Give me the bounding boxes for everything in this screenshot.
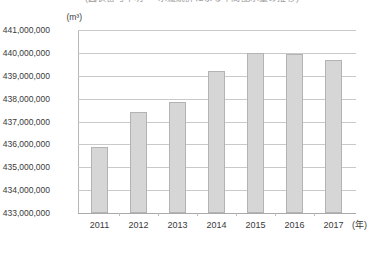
bar-2016 [286, 54, 303, 213]
y-axis-unit-label: (m³) [0, 12, 82, 23]
bar-2017 [325, 60, 342, 213]
x-axis-tick [197, 213, 198, 216]
y-axis-tick-label: 438,000,000 [0, 94, 50, 104]
y-axis-tick-label: 437,000,000 [0, 117, 50, 127]
y-axis-tick-label: 439,000,000 [0, 71, 50, 81]
x-axis-tick [236, 213, 237, 216]
bar-2014 [208, 71, 225, 213]
gridline [78, 53, 356, 54]
x-axis-tick [158, 213, 159, 216]
bar-2013 [169, 102, 186, 213]
y-axis-tick-label: 440,000,000 [0, 48, 50, 58]
bar-2011 [91, 147, 108, 213]
y-axis-tick-label: 436,000,000 [0, 139, 50, 149]
x-axis-tick [119, 213, 120, 216]
plot-area: 441,000,000440,000,000439,000,000438,000… [78, 30, 356, 213]
y-axis-tick-label: 434,000,000 [0, 185, 50, 195]
bar-2012 [130, 112, 147, 213]
chart-title: (図表番号不明 ‥ 水道統計による年間配水量の推移) [0, 0, 384, 5]
x-axis-tick-label-2017: 2017 [311, 219, 357, 231]
y-axis-tick-label: 441,000,000 [0, 25, 50, 35]
y-axis-tick-label: 433,000,000 [0, 208, 50, 218]
x-axis-unit-label: (年) [352, 219, 367, 231]
x-axis-tick [275, 213, 276, 216]
gridline [78, 30, 356, 31]
y-axis-tick-label: 435,000,000 [0, 162, 50, 172]
bar-2015 [247, 53, 264, 213]
x-axis-tick [314, 213, 315, 216]
